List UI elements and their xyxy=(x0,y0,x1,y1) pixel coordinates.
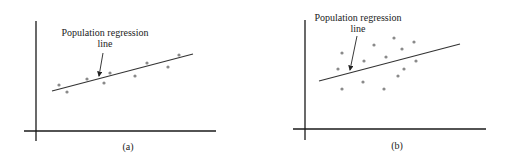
data-point xyxy=(336,67,339,70)
arrow-icon xyxy=(350,36,357,70)
panel-a: Population regression line (a) xyxy=(24,21,216,153)
data-point xyxy=(414,59,417,62)
data-point xyxy=(65,90,68,93)
data-point xyxy=(340,87,343,90)
data-point xyxy=(361,80,364,83)
data-point xyxy=(340,51,343,54)
annotation-label: Population regression xyxy=(315,12,402,23)
regression-line xyxy=(319,44,460,81)
data-point xyxy=(392,36,395,39)
annotation-label-line2: line xyxy=(98,38,114,49)
data-point xyxy=(166,65,169,68)
data-point xyxy=(372,43,375,46)
annotation-label: Population regression xyxy=(62,27,149,38)
data-point xyxy=(177,53,180,56)
data-point xyxy=(402,67,405,70)
data-point xyxy=(400,47,403,50)
data-point xyxy=(384,55,387,58)
data-point xyxy=(85,77,88,80)
data-points xyxy=(336,36,417,90)
data-point xyxy=(102,81,105,84)
panel-caption: (b) xyxy=(391,140,403,152)
arrow-icon xyxy=(99,53,103,76)
data-point xyxy=(396,74,399,77)
data-point xyxy=(362,59,365,62)
figure: Population regression line (a) Populatio… xyxy=(0,0,507,158)
panel-b: Population regression line (b) xyxy=(293,12,486,152)
data-point xyxy=(412,40,415,43)
data-point xyxy=(145,61,148,64)
panel-caption: (a) xyxy=(122,141,133,153)
data-point xyxy=(57,83,60,86)
data-point xyxy=(382,87,385,90)
data-point xyxy=(133,74,136,77)
annotation-label-line2: line xyxy=(351,23,367,34)
data-point xyxy=(108,71,111,74)
regression-line xyxy=(52,54,193,91)
